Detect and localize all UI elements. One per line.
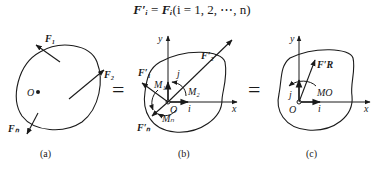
caption-b: (b) (178, 148, 190, 160)
equals-sign-1: = (112, 77, 124, 102)
origin-label: O (27, 87, 34, 98)
unit-i-label: i (188, 103, 191, 114)
y-axis-label: y (289, 33, 295, 44)
unit-j-label: j (287, 89, 292, 100)
moment-m2-label: M₂ (187, 86, 200, 97)
caption-a: (a) (40, 148, 51, 160)
force-fn-prime-label: F′ₙ (136, 122, 151, 133)
force-f1-label: F₁ (44, 33, 55, 44)
resultant-force-label: F′R (316, 59, 333, 70)
origin-point (36, 90, 40, 94)
force-f2-prime-label: F′₂ (200, 50, 214, 61)
y-axis-label: y (157, 33, 163, 44)
x-axis-label: x (363, 103, 369, 114)
resultant-moment-arc (289, 81, 316, 86)
unit-j-label: j (175, 68, 180, 79)
moment-m1-arc (152, 90, 158, 110)
panel-b: y x i j O F′₁ F′₂ F′ₙ M₁ M₂ Mₙ (b) (136, 33, 237, 160)
panel-c: y x i j O F′R MO (c) (278, 33, 370, 160)
force-fn-arrow (27, 113, 38, 134)
diagram-canvas: O F₁ F₂ Fₙ (a) = y x i j O F′₁ F′₂ F′ₙ (0, 0, 384, 178)
origin-label: O (289, 104, 296, 115)
panel-a: O F₁ F₂ Fₙ (a) (7, 33, 114, 160)
caption-c: (c) (306, 148, 317, 160)
resultant-moment-label: MO (316, 87, 333, 98)
force-f1-prime-label: F′₁ (137, 67, 151, 78)
moment-m1-label: M₁ (153, 79, 166, 90)
x-axis-label: x (231, 103, 237, 114)
equals-sign-2: = (248, 77, 260, 102)
moment-m2-arc (172, 82, 186, 96)
force-fn-label: Fₙ (7, 123, 20, 134)
unit-i-label: i (318, 103, 321, 114)
moment-mn-label: Mₙ (161, 113, 175, 124)
